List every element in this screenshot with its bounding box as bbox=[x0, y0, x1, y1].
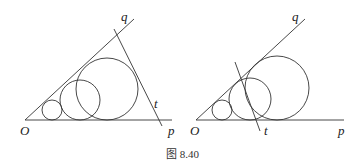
large-circle bbox=[245, 56, 309, 120]
label-t: t bbox=[154, 96, 158, 111]
label-q: q bbox=[121, 9, 128, 24]
figure-caption: 图 8.40 bbox=[166, 148, 200, 160]
label-p: p bbox=[167, 123, 175, 138]
right-diagram: O p q t bbox=[190, 9, 345, 138]
ray-q bbox=[25, 19, 134, 120]
label-O: O bbox=[190, 123, 200, 138]
label-t: t bbox=[264, 123, 268, 138]
figure-8-40: O p q t O p q t 图 8.40 bbox=[0, 0, 364, 166]
label-O: O bbox=[20, 123, 30, 138]
line-t bbox=[114, 29, 162, 126]
label-p: p bbox=[337, 123, 345, 138]
small-circle bbox=[42, 100, 62, 120]
left-diagram: O p q t bbox=[20, 9, 175, 138]
middle-circle bbox=[229, 78, 271, 120]
large-circle bbox=[76, 58, 138, 120]
label-q: q bbox=[292, 9, 299, 24]
middle-circle bbox=[60, 80, 100, 120]
